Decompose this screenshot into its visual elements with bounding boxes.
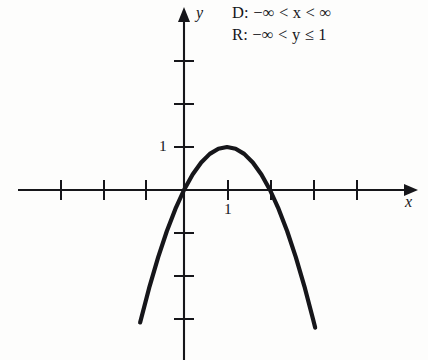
y-axis-tick-label-1: 1: [159, 137, 167, 155]
x-axis-label: x: [405, 193, 412, 211]
x-axis-group: [18, 180, 418, 200]
domain-annotation-line: D: −∞ < x < ∞: [232, 2, 331, 24]
y-axis-label: y: [196, 4, 203, 22]
x-axis-tick-label-1: 1: [224, 200, 232, 218]
y-axis-arrowhead: [178, 7, 190, 22]
y-axis-group: [174, 7, 194, 360]
range-annotation-line: R: −∞ < y ≤ 1: [232, 24, 331, 46]
parabola-curve: [140, 147, 315, 328]
graph-canvas: [0, 0, 428, 360]
domain-range-annotation: D: −∞ < x < ∞ R: −∞ < y ≤ 1: [232, 2, 331, 47]
parabola-figure: D: −∞ < x < ∞ R: −∞ < y ≤ 1 x y 1 1: [0, 0, 428, 360]
